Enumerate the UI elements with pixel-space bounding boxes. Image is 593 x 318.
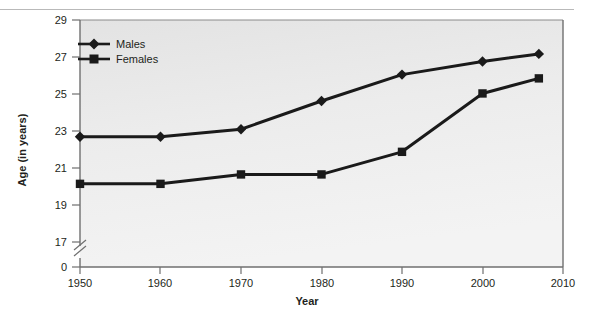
data-point-marker — [156, 180, 164, 188]
y-tick-label-19: 19 — [55, 199, 67, 211]
x-tick-label-1970: 1970 — [229, 277, 253, 289]
y-tick-label-17: 17 — [55, 236, 67, 248]
legend-label-females: Females — [116, 53, 159, 65]
x-tick-label-1990: 1990 — [390, 277, 414, 289]
data-point-marker — [317, 170, 325, 178]
line-chart-svg: 29 27 25 23 21 19 17 0 1950 1960 1970 19… — [0, 0, 593, 318]
y-tick-label-23: 23 — [55, 125, 67, 137]
y-tick-label-25: 25 — [55, 88, 67, 100]
x-tick-label-1950: 1950 — [68, 277, 92, 289]
y-tick-label-29: 29 — [55, 14, 67, 26]
x-tick-marks — [80, 267, 563, 274]
data-point-marker — [535, 74, 543, 82]
data-point-marker — [398, 148, 406, 156]
data-point-marker — [76, 180, 84, 188]
x-tick-label-1980: 1980 — [310, 277, 334, 289]
x-tick-label-1960: 1960 — [148, 277, 172, 289]
y-tick-label-27: 27 — [55, 51, 67, 63]
chart-figure: 29 27 25 23 21 19 17 0 1950 1960 1970 19… — [0, 0, 593, 318]
x-axis-title: Year — [295, 295, 319, 307]
legend-entry-females: Females — [78, 53, 159, 65]
x-tick-label-2010: 2010 — [551, 277, 575, 289]
legend-label-males: Males — [116, 38, 146, 50]
data-point-marker — [237, 170, 245, 178]
y-axis-title: Age (in years) — [16, 113, 28, 186]
y-tick-label-0: 0 — [61, 261, 67, 273]
y-tick-label-21: 21 — [55, 162, 67, 174]
square-marker-icon — [90, 55, 99, 64]
y-tick-marks — [72, 20, 80, 267]
x-tick-label-2000: 2000 — [471, 277, 495, 289]
data-point-marker — [478, 89, 486, 97]
